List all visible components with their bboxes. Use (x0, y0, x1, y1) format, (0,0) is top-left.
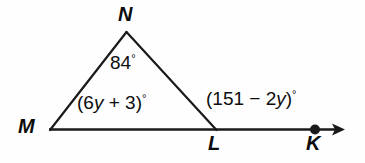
angle-expr-M-rest: + 3) (103, 92, 142, 113)
angle-label-at-N: 84° (110, 53, 136, 72)
degree-symbol-L: ° (292, 88, 296, 100)
segment-MN (50, 32, 127, 130)
point-label-M: M (18, 116, 35, 136)
point-label-L: L (208, 133, 220, 153)
geometry-figure: N M L K 84° (6y + 3)° (151 − 2y)° (0, 0, 365, 163)
segment-NL (127, 32, 217, 130)
angle-expr-L-variable: y (276, 88, 286, 109)
angle-label-at-M: (6y + 3)° (77, 93, 146, 112)
degree-symbol-M: ° (142, 92, 146, 104)
angle-value-N: 84 (110, 52, 131, 73)
angle-expr-L-open: (151 − 2 (206, 88, 276, 109)
degree-symbol-N: ° (131, 52, 135, 64)
point-label-N: N (118, 4, 132, 24)
point-label-K: K (306, 133, 320, 153)
angle-expr-M-variable: y (94, 92, 104, 113)
angle-expr-M-open: (6 (77, 92, 94, 113)
angle-label-at-L: (151 − 2y)° (206, 89, 296, 108)
